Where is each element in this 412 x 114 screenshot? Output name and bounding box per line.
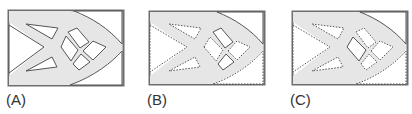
panel-label-b: (B) — [147, 91, 167, 108]
panel-c: (C) — [284, 0, 412, 114]
topology-structure-b — [141, 0, 278, 92]
panel-a: (A) — [0, 0, 137, 114]
panel-b: (B) — [141, 0, 278, 114]
topology-structure-c — [284, 0, 412, 92]
panel-label-c: (C) — [290, 91, 311, 108]
topology-structure-a — [0, 0, 137, 92]
panel-label-a: (A) — [6, 91, 26, 108]
